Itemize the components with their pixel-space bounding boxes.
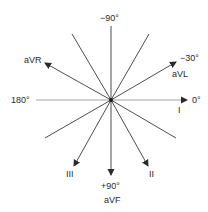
center-point — [109, 98, 113, 102]
axis-line-upper-left — [72, 34, 111, 100]
lead-II-arrow — [111, 100, 148, 166]
axis-line-lower-left — [45, 100, 111, 138]
lead-aVL-arrow — [111, 62, 176, 100]
label-III: III — [66, 170, 74, 179]
lead-aVR-arrow — [45, 63, 111, 100]
axis-line-lower-right — [111, 100, 176, 138]
label-minus90: −90° — [100, 14, 119, 23]
label-aVR: aVR — [24, 56, 42, 65]
label-180: 180° — [11, 96, 30, 105]
label-II: II — [149, 170, 154, 179]
lead-III-arrow — [74, 100, 111, 166]
label-zero: 0° — [192, 96, 201, 105]
label-I: I — [178, 106, 181, 115]
axis-line-upper-right — [111, 34, 149, 100]
label-plus90: +90° — [101, 182, 120, 191]
label-aVF: aVF — [104, 196, 121, 205]
label-minus30: −30° — [180, 54, 199, 63]
label-aVL: aVL — [172, 70, 188, 79]
